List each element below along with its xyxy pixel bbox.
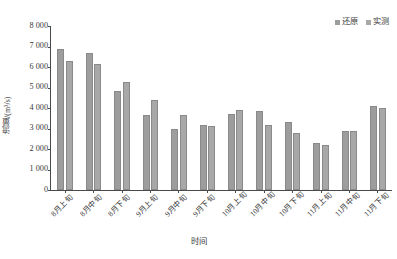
y-axis-tick-label: 3 000 <box>12 124 48 132</box>
bar-group <box>364 26 392 190</box>
bar-group <box>136 26 164 190</box>
y-axis-tick-mark <box>48 108 51 109</box>
x-axis-label-slot: 11月下旬 <box>363 191 391 235</box>
bar <box>236 110 243 190</box>
bar-group <box>278 26 306 190</box>
bar <box>66 61 73 190</box>
y-axis-tick-mark <box>48 129 51 130</box>
x-axis-tick-label-text: 10月下旬 <box>277 190 305 218</box>
bar <box>293 133 300 190</box>
bar-group <box>335 26 363 190</box>
x-axis-label-slot: 10月下旬 <box>277 191 305 235</box>
x-axis-tick-label-text: 9月中旬 <box>164 193 189 218</box>
bar <box>94 64 101 190</box>
bar-group <box>250 26 278 190</box>
y-axis-tick-labels: 8 0007 0006 0005 0004 0003 0002 0001 000… <box>8 0 48 259</box>
bar-chart: 流量/(m³/s) 8 0007 0006 0005 0004 0003 000… <box>0 0 397 259</box>
chart-legend: 还原实测 <box>335 18 389 26</box>
bar <box>123 82 130 190</box>
legend-item: 实测 <box>366 18 389 26</box>
x-axis-tick-label-text: 11月下旬 <box>363 191 391 219</box>
y-axis-tick-mark <box>48 67 51 68</box>
x-axis-label-slot: 10月中旬 <box>249 191 277 235</box>
x-axis-tick-label-text: 10月上旬 <box>221 190 249 218</box>
bar <box>322 145 329 190</box>
y-axis-tick-label: 8 000 <box>12 22 48 30</box>
x-axis-tick-label-text: 11月中旬 <box>334 191 362 219</box>
y-axis-tick-label: 1 000 <box>12 165 48 173</box>
y-axis-tick-mark <box>48 88 51 89</box>
plot-area <box>50 26 392 191</box>
x-axis-tick-label-text: 8月中旬 <box>78 193 103 218</box>
x-axis-tick-label-text: 8月下旬 <box>107 193 132 218</box>
legend-swatch-icon <box>366 20 371 25</box>
y-axis-tick-mark <box>48 149 51 150</box>
bar-group <box>165 26 193 190</box>
y-axis-tick-label: 7 000 <box>12 42 48 50</box>
bars-layer <box>51 26 392 190</box>
bar <box>265 125 272 190</box>
bar <box>379 108 386 190</box>
x-axis-label-slot: 8月中旬 <box>78 191 106 235</box>
y-axis-tick-label: 2 000 <box>12 145 48 153</box>
y-axis-tick-mark <box>48 170 51 171</box>
bar <box>151 100 158 190</box>
x-axis-tick-label-text: 9月上旬 <box>135 193 160 218</box>
bar <box>180 115 187 190</box>
y-axis-tick-label: 6 000 <box>12 63 48 71</box>
x-axis-label-slot: 9月中旬 <box>164 191 192 235</box>
x-axis-label-slot: 9月上旬 <box>135 191 163 235</box>
x-axis-title: 时间 <box>0 237 397 247</box>
bar-group <box>108 26 136 190</box>
bar-group <box>51 26 79 190</box>
bar-group <box>307 26 335 190</box>
bar-group <box>193 26 221 190</box>
bar-group <box>79 26 107 190</box>
bar <box>313 143 320 190</box>
bar <box>86 53 93 190</box>
x-axis-label-slot: 11月中旬 <box>334 191 362 235</box>
y-axis-tick-mark <box>48 47 51 48</box>
bar-group <box>222 26 250 190</box>
x-axis-label-slot: 9月下旬 <box>192 191 220 235</box>
x-axis-tick-label-text: 11月上旬 <box>306 191 334 219</box>
x-axis-tick-labels: 8月上旬8月中旬8月下旬9月上旬9月中旬9月下旬10月上旬10月中旬10月下旬1… <box>50 191 391 235</box>
y-axis-tick-mark <box>48 26 51 27</box>
legend-label: 实测 <box>373 18 389 26</box>
x-axis-label-slot: 8月上旬 <box>50 191 78 235</box>
legend-label: 还原 <box>342 18 358 26</box>
x-axis-tick-label-text: 8月上旬 <box>50 193 75 218</box>
x-axis-tick-label-text: 9月下旬 <box>192 193 217 218</box>
x-axis-label-slot: 8月下旬 <box>107 191 135 235</box>
y-axis-tick-label: 4 000 <box>12 104 48 112</box>
bar <box>57 49 64 190</box>
x-axis-tick-label-text: 10月中旬 <box>249 190 277 218</box>
y-axis-tick-label: 5 000 <box>12 83 48 91</box>
legend-item: 还原 <box>335 18 358 26</box>
x-axis-label-slot: 11月上旬 <box>306 191 334 235</box>
y-axis-tick-label: 0 <box>12 186 48 194</box>
legend-swatch-icon <box>335 20 340 25</box>
bar <box>208 126 215 190</box>
bar <box>350 131 357 190</box>
x-axis-label-slot: 10月上旬 <box>221 191 249 235</box>
